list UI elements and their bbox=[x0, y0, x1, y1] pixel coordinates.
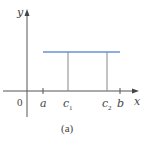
x-axis-label: x bbox=[134, 95, 141, 108]
tick-label-c1-subscript: 1 bbox=[69, 104, 73, 112]
tick-label-c2-subscript: 2 bbox=[108, 104, 112, 112]
tick-label-b: b bbox=[117, 97, 124, 110]
constant-function-diagram: y x 0 a c 1 c 2 b (a) bbox=[0, 0, 151, 145]
y-axis-arrow-icon bbox=[25, 9, 30, 16]
y-axis-label: y bbox=[16, 6, 24, 19]
origin-label: 0 bbox=[17, 96, 23, 108]
diagram-svg: y x 0 a c 1 c 2 b (a) bbox=[0, 0, 151, 145]
tick-label-a: a bbox=[40, 97, 47, 110]
figure-caption: (a) bbox=[61, 122, 74, 135]
x-axis-arrow-icon bbox=[132, 89, 139, 94]
